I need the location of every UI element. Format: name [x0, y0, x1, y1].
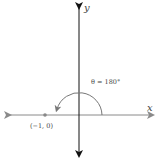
point-marker	[43, 113, 47, 117]
unit-circle-diagram: y x θ = 180° (−1, 0)	[0, 0, 159, 162]
point-label: (−1, 0)	[30, 122, 53, 130]
angle-label: θ = 180°	[91, 78, 120, 86]
y-axis-label: y	[83, 2, 90, 13]
x-axis-label: x	[147, 102, 153, 113]
